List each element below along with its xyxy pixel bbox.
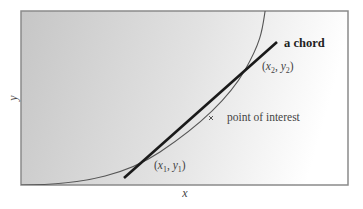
point-of-interest-label: point of interest	[227, 111, 301, 124]
chord-label: a chord	[284, 36, 325, 50]
x-axis-label: x	[181, 186, 188, 200]
y-axis-label: y	[6, 95, 20, 102]
chord-diagram: y x a chord (x2, y2) (x1, y1) point of i…	[0, 0, 363, 209]
